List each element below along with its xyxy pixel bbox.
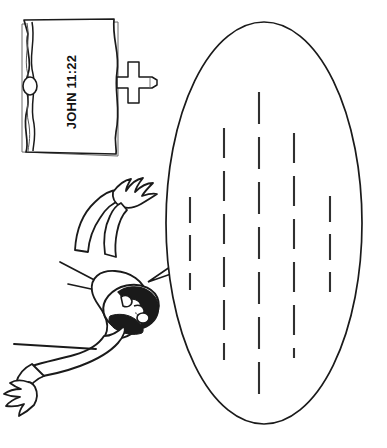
eye [121,296,132,307]
verse-reference-label: JOHN 11:22 [64,55,79,129]
bible-book[interactable]: JOHN 11:22 [22,19,118,156]
worksheet-page: JOHN 11:22 [0,0,387,448]
mouth [137,313,149,323]
speech-bubble-outline [166,22,362,424]
line-art-canvas: JOHN 11:22 [0,0,387,448]
book-spine-bead [23,77,37,95]
